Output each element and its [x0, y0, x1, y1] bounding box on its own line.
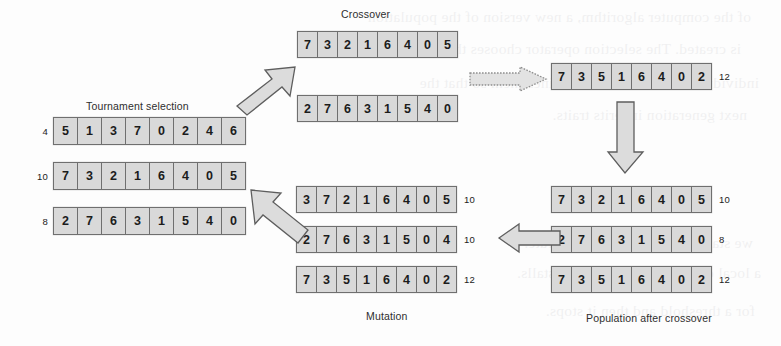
gene-cell: 4	[198, 208, 222, 234]
gene-strip[interactable]: 7 3 2 1 6 4 0 5	[551, 186, 712, 213]
chromosome-row[interactable]: 2 7 6 3 1 5 0 4 10	[296, 226, 475, 253]
chromosome-row[interactable]: 2 7 6 3 1 5 4 0 8	[551, 226, 724, 253]
gene-strip[interactable]: 7 3 2 1 6 4 0 5	[297, 31, 458, 58]
gene-cell: 3	[102, 118, 126, 144]
gene-cell: 4	[397, 267, 417, 292]
arrow-offspring-to-population-icon	[606, 100, 646, 176]
gene-cell: 7	[54, 163, 78, 189]
gene-cell: 6	[377, 187, 397, 212]
chromosome-row[interactable]: 10 7 3 2 1 6 4 0 5	[28, 162, 246, 190]
gene-cell: 5	[398, 96, 418, 121]
gene-cell: 5	[592, 267, 612, 292]
ghost-line: next generation inherits traits.	[552, 104, 747, 125]
fitness-value: 10	[464, 194, 475, 205]
fitness-value: 10	[719, 194, 730, 205]
gene-cell: 1	[357, 187, 377, 212]
gene-cell: 4	[437, 227, 456, 252]
arrow-mutation-to-selection-icon	[248, 186, 314, 248]
gene-cell: 2	[337, 187, 357, 212]
chromosome-row[interactable]: 7 3 5 1 6 4 0 2 12	[551, 63, 730, 90]
gene-cell: 3	[612, 227, 632, 252]
gene-cell: 6	[337, 227, 357, 252]
gene-cell: 2	[54, 208, 78, 234]
gene-strip[interactable]: 3 7 2 1 6 4 0 5	[296, 186, 457, 213]
gene-cell: 5	[437, 187, 456, 212]
chromosome-row[interactable]: 7 3 2 1 6 4 0 5	[297, 31, 458, 58]
fitness-value: 4	[28, 126, 48, 137]
gene-strip[interactable]: 2 7 6 3 1 5 0 4	[296, 226, 457, 253]
gene-cell: 5	[54, 118, 78, 144]
gene-cell: 1	[612, 187, 632, 212]
gene-cell: 1	[378, 96, 398, 121]
caption-mutation: Mutation	[366, 310, 407, 322]
gene-cell: 6	[632, 187, 652, 212]
gene-strip[interactable]: 7 3 5 1 6 4 0 2	[551, 266, 712, 293]
gene-strip[interactable]: 7 3 5 1 6 4 0 2	[296, 266, 457, 293]
gene-cell: 0	[438, 96, 457, 121]
gene-cell: 3	[318, 32, 338, 57]
fitness-value: 12	[464, 274, 475, 285]
gene-cell: 5	[337, 267, 357, 292]
gene-cell: 7	[572, 227, 592, 252]
gene-cell: 1	[126, 163, 150, 189]
gene-cell: 0	[222, 208, 245, 234]
gene-cell: 7	[126, 118, 150, 144]
caption-population-after-crossover: Population after crossover	[586, 312, 712, 324]
gene-cell: 6	[632, 267, 652, 292]
gene-cell: 3	[78, 163, 102, 189]
chromosome-row[interactable]: 4 5 1 3 7 0 2 4 6	[28, 117, 246, 145]
fitness-value: 8	[719, 234, 724, 245]
chromosome-row[interactable]: 7 3 5 1 6 4 0 2 12	[551, 266, 730, 293]
gene-cell: 3	[357, 227, 377, 252]
gene-cell: 0	[417, 267, 437, 292]
gene-cell: 5	[692, 187, 711, 212]
gene-cell: 4	[652, 187, 672, 212]
gene-cell: 1	[377, 227, 397, 252]
gene-cell: 5	[592, 64, 612, 89]
caption-tournament-selection: Tournament selection	[86, 100, 189, 112]
chromosome-row[interactable]: 7 3 5 1 6 4 0 2 12	[296, 266, 475, 293]
gene-cell: 6	[632, 64, 652, 89]
gene-cell: 0	[198, 163, 222, 189]
gene-strip[interactable]: 2 7 6 3 1 5 4 0	[551, 226, 712, 253]
gene-cell: 6	[338, 96, 358, 121]
chromosome-row[interactable]: 7 3 2 1 6 4 0 5 10	[551, 186, 730, 213]
gene-strip[interactable]: 7 3 5 1 6 4 0 2	[551, 63, 712, 90]
gene-cell: 6	[592, 227, 612, 252]
gene-cell: 0	[692, 227, 711, 252]
fitness-value: 8	[28, 216, 48, 227]
gene-cell: 5	[438, 32, 457, 57]
gene-strip[interactable]: 5 1 3 7 0 2 4 6	[53, 117, 246, 145]
fitness-value: 10	[464, 234, 475, 245]
gene-cell: 7	[317, 227, 337, 252]
gene-cell: 1	[612, 267, 632, 292]
gene-cell: 0	[672, 267, 692, 292]
caption-crossover: Crossover	[341, 8, 390, 20]
gene-cell: 5	[174, 208, 198, 234]
gene-cell: 1	[612, 64, 632, 89]
gene-strip[interactable]: 2 7 6 3 1 5 4 0	[53, 207, 246, 235]
chromosome-row[interactable]: 3 7 2 1 6 4 0 5 10	[296, 186, 475, 213]
gene-cell: 1	[78, 118, 102, 144]
gene-cell: 2	[174, 118, 198, 144]
chromosome-row[interactable]: 2 7 6 3 1 5 4 0	[297, 95, 458, 122]
gene-cell: 0	[672, 187, 692, 212]
chromosome-row[interactable]: 8 2 7 6 3 1 5 4 0	[28, 207, 246, 235]
gene-cell: 7	[297, 267, 317, 292]
gene-cell: 4	[398, 32, 418, 57]
gene-strip[interactable]: 7 3 2 1 6 4 0 5	[53, 162, 246, 190]
gene-cell: 7	[552, 187, 572, 212]
gene-cell: 4	[652, 267, 672, 292]
gene-cell: 7	[318, 96, 338, 121]
gene-cell: 4	[418, 96, 438, 121]
gene-cell: 3	[317, 267, 337, 292]
ghost-line: of the computer algorithm, a new version…	[368, 6, 751, 27]
gene-cell: 1	[150, 208, 174, 234]
gene-cell: 1	[358, 32, 378, 57]
ghost-line: is created. The selection operator choos…	[416, 38, 741, 59]
gene-cell: 2	[592, 187, 612, 212]
gene-cell: 5	[652, 227, 672, 252]
gene-strip[interactable]: 2 7 6 3 1 5 4 0	[297, 95, 458, 122]
gene-cell: 7	[552, 64, 572, 89]
arrow-selection-to-crossover-icon	[232, 62, 302, 120]
